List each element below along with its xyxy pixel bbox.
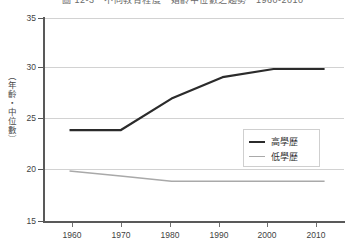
line-series-high-education [70, 69, 325, 130]
chart-title-clipped: 圖 12-3 不同教育程度 婚齡中位數之趨勢 1960-2010 [0, 0, 350, 7]
legend-swatch-high-education [249, 141, 265, 143]
legend-label-high-education: 高學歷 [271, 135, 298, 148]
x-tick-1990 [219, 223, 220, 227]
series-plot [44, 18, 345, 223]
x-tick-label-2000: 2000 [247, 230, 287, 240]
y-tick-label-25: 25 [6, 113, 36, 123]
y-tick-label-15: 15 [6, 216, 36, 226]
chart-title: 圖 12-3 不同教育程度 婚齡中位數之趨勢 1960-2010 [62, 0, 304, 6]
legend-item-high-education: 高學歷 [249, 134, 314, 149]
legend-swatch-low-education [249, 156, 265, 157]
x-tick-1980 [170, 223, 171, 227]
x-tick-2010 [316, 223, 317, 227]
y-tick-label-20: 20 [6, 164, 36, 174]
chart-legend: 高學歷 低學歷 [243, 129, 320, 167]
legend-item-low-education: 低學歷 [249, 149, 314, 164]
line-series-low-education [70, 171, 325, 181]
x-tick-1970 [121, 223, 122, 227]
x-tick-label-1970: 1970 [101, 230, 141, 240]
x-tick-label-1980: 1980 [150, 230, 190, 240]
legend-label-low-education: 低學歷 [271, 150, 298, 163]
y-tick-label-30: 30 [6, 62, 36, 72]
x-tick-label-1990: 1990 [199, 230, 239, 240]
x-tick-1960 [72, 223, 73, 227]
y-tick-label-35: 35 [6, 13, 36, 23]
x-tick-2000 [267, 223, 268, 227]
x-tick-label-1960: 1960 [52, 230, 92, 240]
y-axis-title: （年齡‧中位數） [2, 72, 16, 144]
x-tick-label-2010: 2010 [296, 230, 336, 240]
chart-figure: 圖 12-3 不同教育程度 婚齡中位數之趨勢 1960-2010 （年齡‧中位數… [0, 0, 350, 251]
